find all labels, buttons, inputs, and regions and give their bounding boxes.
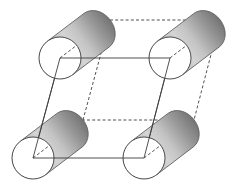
unit-cell-canvas	[0, 0, 242, 187]
unit-cell-figure	[0, 0, 242, 187]
